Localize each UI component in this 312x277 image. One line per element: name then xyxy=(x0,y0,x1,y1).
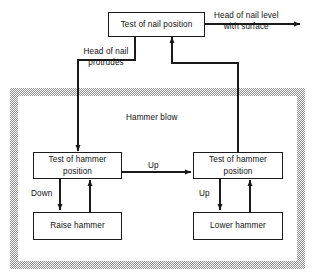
edge-label-down-left: Down xyxy=(31,188,52,199)
edge-label-head-of-nail-level: Head of nail level with surface xyxy=(214,10,279,32)
edge-label-line2: with surface xyxy=(214,21,279,32)
flow-diagram: Test of nail position Test of hammer pos… xyxy=(0,0,312,277)
node-label: Test of hammer position xyxy=(197,154,279,178)
node-test-nail-position[interactable]: Test of nail position xyxy=(108,12,205,37)
node-label: Test of nail position xyxy=(121,19,193,31)
node-raise-hammer[interactable]: Raise hammer xyxy=(33,212,122,240)
node-lower-hammer[interactable]: Lower hammer xyxy=(193,212,283,240)
edge-label-head-of-nail-protrudes: Head of nail protrudes xyxy=(79,46,133,68)
edge-label-line1: Head of nail level xyxy=(214,10,279,21)
node-test-hammer-position-left[interactable]: Test of hammer position xyxy=(33,152,122,179)
edge-label-line1: Head of nail xyxy=(79,46,133,57)
edge-label-up-between: Up xyxy=(148,160,159,171)
node-label: Raise hammer xyxy=(50,220,104,232)
edge-label-up-right: Up xyxy=(199,188,210,199)
edge-label-line2: protrudes xyxy=(79,57,133,68)
node-label: Test of hammer position xyxy=(37,154,118,178)
node-test-hammer-position-right[interactable]: Test of hammer position xyxy=(193,152,283,179)
node-label: Lower hammer xyxy=(210,220,266,232)
region-label-hammer-blow: Hammer blow xyxy=(126,113,178,122)
